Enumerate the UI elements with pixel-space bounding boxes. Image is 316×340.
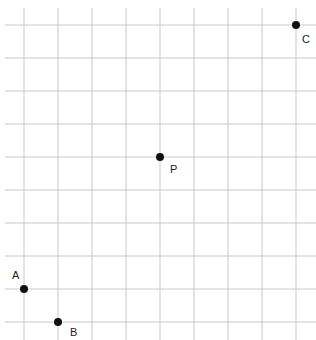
- grid-lines: [5, 8, 316, 340]
- point-label: B: [70, 326, 77, 338]
- point-marker: [20, 285, 28, 293]
- point-marker: [54, 318, 62, 326]
- point-marker: [292, 21, 300, 29]
- point-label: A: [12, 269, 20, 281]
- point-label: C: [302, 33, 310, 45]
- coordinate-grid-diagram: ABPC: [0, 0, 316, 340]
- point-p: P: [156, 153, 177, 175]
- point-label: P: [170, 163, 177, 175]
- points-layer: ABPC: [12, 21, 310, 338]
- point-marker: [156, 153, 164, 161]
